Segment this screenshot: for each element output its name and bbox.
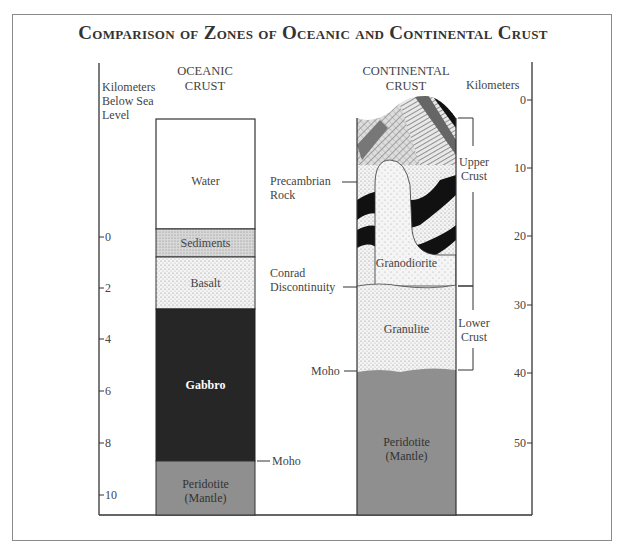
right-tick-0: 0 bbox=[510, 93, 526, 107]
left-axis-label-line3: Level bbox=[102, 108, 155, 122]
continental-header-line1: CONTINENTAL bbox=[356, 64, 456, 79]
conrad-label: Conrad Discontinuity bbox=[270, 266, 335, 294]
right-tick-50: 50 bbox=[506, 436, 526, 450]
right-axis-ticks bbox=[527, 100, 532, 443]
precambrian-label: Precambrian Rock bbox=[270, 174, 331, 202]
lower-crust-line2: Crust bbox=[458, 330, 490, 344]
water-label: Water bbox=[156, 174, 255, 188]
oceanic-peridotite-line1: Peridotite bbox=[156, 477, 255, 491]
right-tick-40: 40 bbox=[506, 366, 526, 380]
continental-moho-label: Moho bbox=[311, 364, 340, 378]
oceanic-moho-label: Moho bbox=[272, 454, 301, 468]
continental-header: CONTINENTAL CRUST bbox=[356, 64, 456, 94]
lower-crust-line1: Lower bbox=[458, 316, 490, 330]
gabbro-label: Gabbro bbox=[156, 378, 255, 392]
right-tick-30: 30 bbox=[506, 298, 526, 312]
lower-crust-label: Lower Crust bbox=[458, 316, 490, 344]
oceanic-peridotite-label: Peridotite (Mantle) bbox=[156, 477, 255, 505]
right-tick-20: 20 bbox=[506, 229, 526, 243]
oceanic-header-line2: CRUST bbox=[160, 79, 250, 94]
conrad-line1: Conrad bbox=[270, 266, 335, 280]
right-tick-10: 10 bbox=[506, 161, 526, 175]
left-tick-8: 8 bbox=[105, 436, 111, 450]
basalt-label: Basalt bbox=[156, 276, 255, 290]
left-tick-2: 2 bbox=[105, 281, 111, 295]
upper-crust-line2: Crust bbox=[458, 169, 490, 183]
sediments-label: Sediments bbox=[156, 236, 255, 250]
continental-header-line2: CRUST bbox=[356, 79, 456, 94]
continental-peridotite-label: Peridotite (Mantle) bbox=[357, 435, 456, 463]
granodiorite-label: Granodiorite bbox=[357, 256, 456, 270]
precambrian-line2: Rock bbox=[270, 188, 331, 202]
oceanic-header-line1: OCEANIC bbox=[160, 64, 250, 79]
oceanic-peridotite-line2: (Mantle) bbox=[156, 491, 255, 505]
right-axis-label: Kilometers bbox=[466, 78, 519, 92]
left-tick-6: 6 bbox=[105, 384, 111, 398]
continental-peridotite-line1: Peridotite bbox=[357, 435, 456, 449]
conrad-line2: Discontinuity bbox=[270, 280, 335, 294]
upper-crust-label: Upper Crust bbox=[458, 155, 490, 183]
left-axis-label: Kilometers Below Sea Level bbox=[102, 80, 155, 122]
left-tick-4: 4 bbox=[105, 332, 111, 346]
granulite-label: Granulite bbox=[357, 322, 456, 336]
left-axis-label-line2: Below Sea bbox=[102, 94, 155, 108]
oceanic-header: OCEANIC CRUST bbox=[160, 64, 250, 94]
continental-peridotite-line2: (Mantle) bbox=[357, 449, 456, 463]
left-tick-0: 0 bbox=[105, 230, 111, 244]
left-axis-ticks bbox=[99, 237, 104, 495]
left-axis-label-line1: Kilometers bbox=[102, 80, 155, 94]
precambrian-line1: Precambrian bbox=[270, 174, 331, 188]
left-tick-10: 10 bbox=[105, 488, 117, 502]
upper-crust-line1: Upper bbox=[458, 155, 490, 169]
